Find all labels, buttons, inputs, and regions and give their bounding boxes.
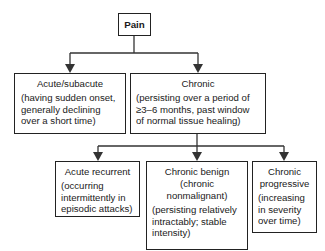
node-description: (persisting relatively intractably; stab… <box>152 204 247 239</box>
node-description: (having sudden onset, generally declinin… <box>21 92 125 127</box>
node-acute-subacute: Acute/subacute (having sudden onset, gen… <box>14 73 126 134</box>
node-acute-recurrent: Acute recurrent (occurring intermittentl… <box>55 161 140 217</box>
node-title: Chronic <box>136 78 260 90</box>
node-title: Acute/subacute <box>21 78 119 90</box>
node-pain-label: Pain <box>124 19 145 30</box>
arrow-icon <box>279 152 289 161</box>
node-title: Acute recurrent <box>61 166 134 178</box>
node-title: Chronic benign (chronic nonmalignant) <box>152 166 242 202</box>
arrow-icon <box>193 64 203 73</box>
node-pain: Pain <box>118 13 151 36</box>
arrow-icon <box>192 152 202 161</box>
arrow-icon <box>65 64 75 73</box>
node-chronic-progressive: Chronic progressive (increasing in sever… <box>252 161 317 233</box>
node-description: (occurring intermittently in episodic at… <box>61 180 139 215</box>
node-title: Chronic progressive <box>258 166 311 190</box>
arrow-icon <box>93 152 103 161</box>
node-description: (increasing in severity over time) <box>258 192 316 227</box>
node-description: (persisting over a period of ≥3–6 months… <box>136 92 265 127</box>
node-chronic-benign: Chronic benign (chronic nonmalignant) (p… <box>146 161 248 250</box>
node-chronic: Chronic (persisting over a period of ≥3–… <box>130 73 266 134</box>
